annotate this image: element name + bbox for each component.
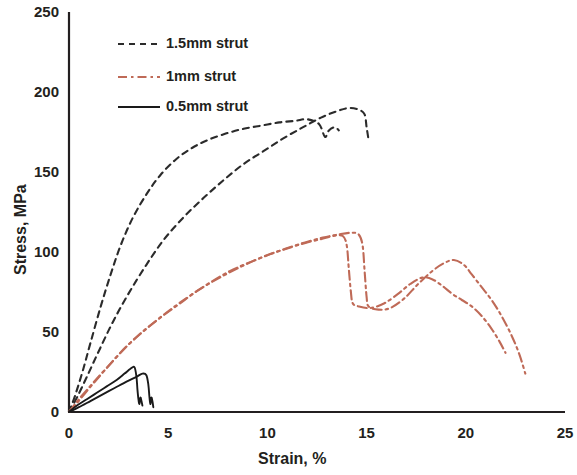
- series-line: [69, 235, 505, 412]
- y-axis-tick-label: 0: [14, 403, 59, 420]
- x-axis-tick-label: 5: [148, 424, 188, 441]
- y-axis-tick-label: 150: [14, 163, 59, 180]
- y-axis-tick-label: 200: [14, 83, 59, 100]
- legend-item-1mm-strut: 1mm strut: [166, 68, 236, 84]
- data-series: [69, 108, 525, 412]
- stress-strain-chart: 0 50 100 150 200 250 0 5 10 15 20 25 Str…: [0, 0, 577, 475]
- x-axis-tick-label: 20: [446, 424, 486, 441]
- legend-item-1-5mm-strut: 1.5mm strut: [166, 35, 248, 51]
- x-axis-tick-label: 15: [347, 424, 387, 441]
- axes: [69, 12, 565, 412]
- x-axis-title: Strain, %: [258, 450, 326, 468]
- y-axis-title: Stress, MPa: [12, 184, 30, 275]
- series-line: [69, 108, 369, 412]
- series-line: [69, 373, 153, 412]
- y-axis-tick-label: 50: [14, 323, 59, 340]
- series-line: [69, 119, 339, 412]
- x-axis-tick-label: 10: [247, 424, 287, 441]
- y-axis-tick-label: 250: [14, 3, 59, 20]
- legend-sample-lines: [118, 44, 160, 107]
- x-axis-tick-label: 25: [545, 424, 577, 441]
- plot-canvas: [0, 0, 577, 475]
- legend-item-0-5mm-strut: 0.5mm strut: [166, 98, 248, 114]
- x-axis-tick-label: 0: [49, 424, 89, 441]
